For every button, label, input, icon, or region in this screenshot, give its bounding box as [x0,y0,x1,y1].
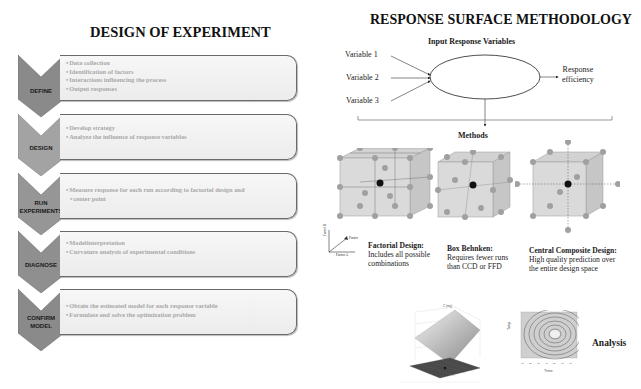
method-factorial: Factorial Design: Includes all possible … [368,241,430,268]
contour-y-label: Temp [507,322,511,330]
axis-label-factor-b: Factor B [323,224,327,236]
contour-plot-thumbnail: Time 10203040506070 [517,310,579,375]
svg-text:20: 20 [529,362,532,365]
bullet: Data collection [66,59,296,68]
analysis-label: Analysis [592,338,626,348]
svg-text:10: 10 [521,362,524,365]
step-box: Modelinterpretation Curvature analysis o… [60,231,297,277]
step-confirm-model: CONFIRM MODEL Obtain the estimated model… [18,289,298,351]
bullet: Obtain the estimated model for each resp… [66,302,296,311]
step-label: DIAGNOSE [18,261,64,269]
method-box-behnken: Box Behnken: Requires fewer runs than CC… [447,244,508,271]
contour-x-label: Time [544,368,554,373]
process-flow-diagram [320,40,641,130]
step-box: Obtain the estimated model for each resp… [60,289,297,335]
step-design: DESIGN Develop strategy Analyze the infl… [18,114,298,176]
step-box: Develop strategy Analyze the influence o… [60,114,297,160]
bullet: Modelinterpretation [66,239,296,248]
bullet: Identification of factors [66,68,296,77]
method-central-composite: Central Composite Design: High quality p… [529,246,617,273]
surface-plot-thumbnail: C (mg) [395,302,485,384]
step-box: Measure response for each run according … [60,173,297,219]
step-diagnose: DIAGNOSE Modelinterpretation Curvature a… [18,231,298,293]
svg-text:40: 40 [545,362,548,365]
step-box: Data collection Identification of factor… [60,55,297,101]
doe-title: DESIGN OF EXPERIMENT [90,24,271,41]
step-define: DEFINE Data collection Identification of… [18,55,298,117]
axis-label-factor-a: Factor A [336,253,348,257]
axis-label-factor: Factor [349,236,358,240]
bullet: Measure response for each run according … [66,186,296,195]
central-composite-cube [515,140,620,235]
rsm-title: RESPONSE SURFACE METHODOLOGY [370,12,632,28]
svg-text:50: 50 [553,362,556,365]
methods-heading: Methods [458,131,488,140]
step-label: CONFIRM MODEL [18,314,64,330]
bullet: Analyze the influence of response variab… [66,133,296,142]
svg-text:70: 70 [569,362,572,365]
bullet: Curvature analysis of experimental condi… [66,248,296,257]
bullet: Formulate and solve the optimization pro… [66,311,296,320]
svg-text:60: 60 [561,362,564,365]
bullet: Develop strategy [66,124,296,133]
svg-text:30: 30 [537,362,540,365]
svg-text:C (mg): C (mg) [443,304,452,308]
bullet: Output responses [66,85,296,94]
chevron-down-icon [18,55,64,117]
process-ellipse [430,55,540,99]
bullet-continuation: center point [66,195,296,204]
step-label: DEFINE [18,87,64,95]
step-label: RUN EXPERIMENTS [18,199,64,215]
step-label: DESIGN [18,144,64,152]
factorial-design-cube [335,148,435,223]
bullet: Interactions influencing the process [66,76,296,85]
box-behnken-cube [433,150,513,222]
step-run-experiments: RUN EXPERIMENTS Measure response for eac… [18,173,298,235]
